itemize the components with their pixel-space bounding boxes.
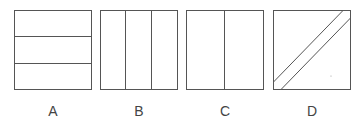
label-a: A [43, 103, 63, 118]
square-d [274, 11, 351, 90]
label-b: B [129, 103, 149, 118]
square-b-outline [101, 11, 178, 90]
square-a-outline [15, 11, 92, 90]
label-d: D [302, 103, 322, 118]
square-d-diagonal-2 [281, 18, 351, 90]
label-c: C [215, 103, 235, 118]
figure-canvas [0, 0, 364, 118]
square-d-outline [274, 11, 351, 90]
square-d-diagonal-1 [274, 11, 344, 83]
square-c [187, 11, 264, 90]
square-b [101, 11, 178, 90]
square-d-dot [330, 75, 331, 76]
square-a [15, 11, 92, 90]
